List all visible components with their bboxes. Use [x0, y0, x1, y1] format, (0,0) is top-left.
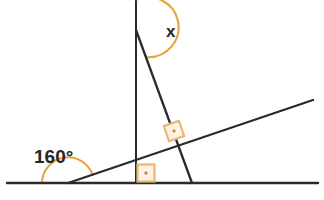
geometry-figure: x 160° [0, 0, 324, 200]
right-angle-mark-base-intersection [138, 165, 155, 182]
right-angle-mark-transversal-intersection [164, 121, 184, 141]
angle-label-160-degrees: 160° [34, 146, 73, 167]
angle-label-x: x [166, 22, 176, 41]
label-group: x 160° [34, 22, 176, 167]
right-angle-dot-icon [144, 171, 147, 174]
rising-transversal [68, 100, 313, 183]
geometry-diagram-canvas: x 160° [0, 0, 324, 200]
